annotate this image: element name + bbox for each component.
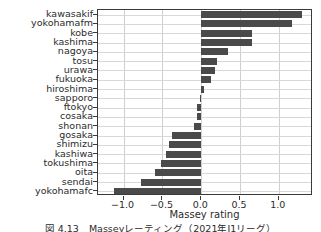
x-gridline bbox=[201, 10, 202, 194]
bar bbox=[201, 58, 217, 65]
figure-massey-rating: kawasakifyokohamafmkobekashimanagoyatosu… bbox=[0, 0, 321, 232]
bar bbox=[201, 20, 292, 27]
y-gridline bbox=[98, 136, 311, 137]
bar bbox=[200, 95, 202, 102]
plot-area bbox=[97, 9, 312, 195]
x-axis-tick-labels: −1.0−0.50.00.51.0 bbox=[97, 196, 312, 210]
y-gridline bbox=[98, 89, 311, 90]
y-axis-tick-label: fukuoka bbox=[55, 74, 93, 83]
bar bbox=[201, 48, 228, 55]
y-axis-tick-label: oita bbox=[75, 167, 93, 176]
y-gridline bbox=[98, 145, 311, 146]
y-gridline bbox=[98, 108, 311, 109]
bar bbox=[201, 30, 252, 37]
bar bbox=[155, 169, 202, 176]
y-gridline bbox=[98, 163, 311, 164]
figure-caption: 図 4.13 Masseyレーティング（2021年J1リーグ） bbox=[0, 221, 321, 232]
bar bbox=[114, 188, 202, 195]
bar bbox=[201, 86, 204, 93]
bar bbox=[201, 39, 252, 46]
bar bbox=[201, 11, 302, 18]
x-gridline bbox=[124, 10, 125, 194]
bar bbox=[197, 104, 202, 111]
y-axis-tick-label: shimizu bbox=[56, 139, 93, 148]
x-gridline bbox=[279, 10, 280, 194]
bar bbox=[169, 141, 201, 148]
bar bbox=[201, 67, 215, 74]
y-gridline bbox=[98, 173, 311, 174]
bar bbox=[166, 151, 202, 158]
bar bbox=[161, 160, 201, 167]
y-gridline bbox=[98, 154, 311, 155]
x-axis-title: Massey rating bbox=[97, 209, 312, 220]
y-gridline bbox=[98, 182, 311, 183]
y-gridline bbox=[98, 98, 311, 99]
x-gridline bbox=[240, 10, 241, 194]
bar bbox=[197, 113, 202, 120]
y-gridline bbox=[98, 117, 311, 118]
bar bbox=[201, 76, 210, 83]
bar bbox=[141, 179, 202, 186]
bar bbox=[172, 132, 201, 139]
bar bbox=[194, 123, 201, 130]
y-gridline bbox=[98, 126, 311, 127]
y-axis-tick-labels: kawasakifyokohamafmkobekashimanagoyatosu… bbox=[0, 9, 93, 195]
y-axis-tick-label: nagoya bbox=[58, 46, 93, 55]
y-axis-tick-label: yokohamafc bbox=[35, 186, 93, 195]
